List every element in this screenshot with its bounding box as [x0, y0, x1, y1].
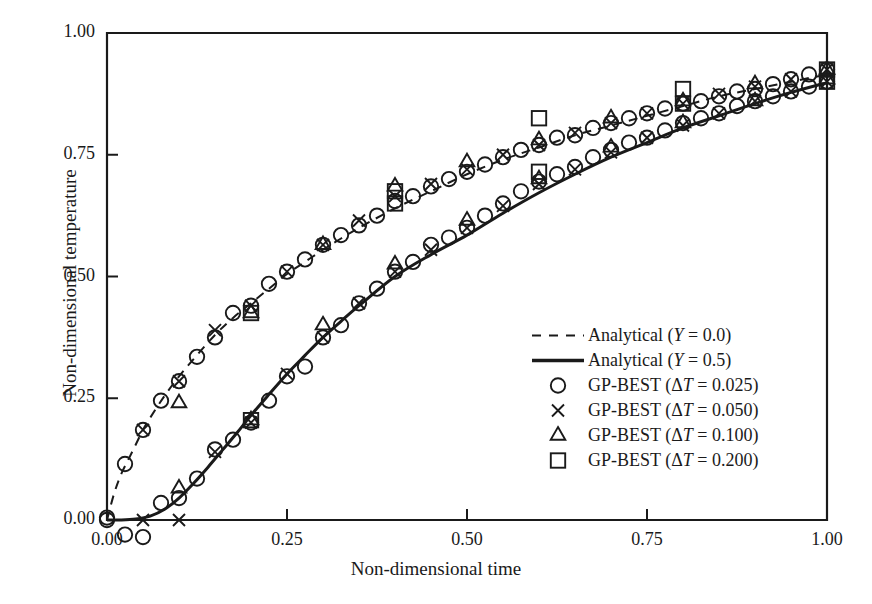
legend-label-cross-marker: GP-BEST (ΔT = 0.050) [588, 400, 758, 421]
marker-circle-2-6 [208, 442, 222, 456]
legend-label-head: Analytical ( [588, 350, 673, 370]
legend-key-circle-marker [528, 373, 588, 398]
legend-label-tail: = 0.5) [683, 350, 731, 370]
legend-label-tail: = 0.050) [693, 400, 759, 420]
legend-label-variable: T [683, 400, 693, 420]
legend-row-circle-marker[interactable]: GP-BEST (ΔT = 0.025) [528, 373, 828, 398]
marker-circle-2-19 [442, 230, 456, 244]
marker-circle-2-21 [478, 157, 492, 171]
marker-triangle-4-2 [316, 317, 331, 330]
cross-marker-icon [552, 405, 564, 417]
y-tick-label-3: 0.75 [25, 143, 95, 164]
legend-label-head: GP-BEST (Δ [588, 425, 683, 445]
triangle-marker-icon [551, 427, 566, 440]
legend-label-tail: = 0.200) [693, 450, 759, 470]
legend-label-variable: T [683, 425, 693, 445]
x-tick-label-2: 0.50 [427, 529, 507, 550]
legend-key-dashed-line [528, 323, 588, 348]
circle-marker-icon [551, 378, 565, 392]
marker-circle-2-5 [190, 350, 204, 364]
marker-circle-2-18 [424, 179, 438, 193]
marker-circle-2-22 [496, 196, 510, 210]
legend-key-cross-marker [528, 398, 588, 423]
marker-circle-2-29 [622, 135, 636, 149]
x-tick-label-1: 0.25 [247, 529, 327, 550]
marker-triangle-4-2 [316, 236, 331, 249]
chart-figure: Non-dimensional time Non-dimensional tem… [0, 0, 872, 604]
legend-label-head: GP-BEST (Δ [588, 450, 683, 470]
marker-circle-2-26 [568, 160, 582, 174]
x-tick-label-4: 1.00 [787, 529, 867, 550]
marker-circle-2-17 [406, 189, 420, 203]
x-tick-label-3: 0.75 [607, 529, 687, 550]
marker-triangle-4-4 [460, 212, 475, 225]
marker-circle-2-3 [154, 496, 168, 510]
legend-label-head: GP-BEST (Δ [588, 400, 683, 420]
marker-circle-2-33 [694, 94, 708, 108]
x-tick-label-0: 0.00 [67, 529, 147, 550]
marker-circle-2-24 [532, 174, 546, 188]
y-tick-label-1: 0.25 [25, 386, 95, 407]
marker-circle-2-23 [514, 143, 528, 157]
marker-circle-2-1 [118, 457, 132, 471]
legend-label-variable: T [683, 450, 693, 470]
legend-row-triangle-marker[interactable]: GP-BEST (ΔT = 0.100) [528, 423, 828, 448]
legend-label-variable: Y [673, 350, 683, 370]
marker-triangle-4-3 [388, 256, 403, 269]
legend-row-solid-line[interactable]: Analytical (Y = 0.5) [528, 348, 828, 373]
y-tick-label-4: 1.00 [25, 21, 95, 42]
y-tick-label-2: 0.50 [25, 265, 95, 286]
marker-cross-3-9 [461, 222, 473, 234]
marker-square-5-2 [532, 111, 546, 125]
legend-label-tail: = 0.025) [693, 375, 759, 395]
legend-label-solid-line: Analytical (Y = 0.5) [588, 350, 731, 371]
y-tick-label-0: 0.00 [25, 508, 95, 529]
marker-circle-2-13 [334, 228, 348, 242]
marker-circle-2-29 [622, 111, 636, 125]
legend-row-square-marker[interactable]: GP-BEST (ΔT = 0.200) [528, 448, 828, 473]
plot-canvas [0, 0, 872, 604]
legend-label-variable: Y [673, 325, 683, 345]
legend-label-triangle-marker: GP-BEST (ΔT = 0.100) [588, 425, 758, 446]
legend-key-triangle-marker [528, 423, 588, 448]
legend-label-tail: = 0.100) [693, 425, 759, 445]
marker-circle-2-31 [658, 101, 672, 115]
x-axis-title: Non-dimensional time [0, 558, 872, 580]
legend-label-circle-marker: GP-BEST (ΔT = 0.025) [588, 375, 758, 396]
marker-circle-2-21 [478, 208, 492, 222]
marker-triangle-4-0 [172, 395, 187, 408]
marker-circle-2-28 [604, 143, 618, 157]
marker-circle-2-25 [550, 167, 564, 181]
marker-circle-2-25 [550, 131, 564, 145]
legend-label-tail: = 0.0) [683, 325, 731, 345]
marker-circle-2-10 [280, 369, 294, 383]
legend-label-dashed-line: Analytical (Y = 0.0) [588, 325, 731, 346]
square-marker-icon [551, 453, 565, 467]
marker-cross-3-5 [317, 331, 329, 343]
legend-label-head: GP-BEST (Δ [588, 375, 683, 395]
legend-key-solid-line [528, 348, 588, 373]
chart-legend: Analytical (Y = 0.0)Analytical (Y = 0.5)… [528, 323, 828, 473]
marker-circle-2-23 [514, 184, 528, 198]
marker-circle-2-34 [712, 89, 726, 103]
marker-circle-2-27 [586, 150, 600, 164]
marker-cross-3-2 [209, 324, 221, 336]
legend-label-head: Analytical ( [588, 325, 673, 345]
legend-row-dashed-line[interactable]: Analytical (Y = 0.0) [528, 323, 828, 348]
legend-label-variable: T [683, 375, 693, 395]
marker-cross-3-14 [641, 107, 653, 119]
legend-row-cross-marker[interactable]: GP-BEST (ΔT = 0.050) [528, 398, 828, 423]
legend-label-square-marker: GP-BEST (ΔT = 0.200) [588, 450, 758, 471]
marker-cross-3-4 [281, 266, 293, 278]
legend-key-square-marker [528, 448, 588, 473]
marker-cross-3-0 [137, 424, 149, 436]
marker-circle-2-11 [298, 359, 312, 373]
marker-circle-2-6 [208, 330, 222, 344]
